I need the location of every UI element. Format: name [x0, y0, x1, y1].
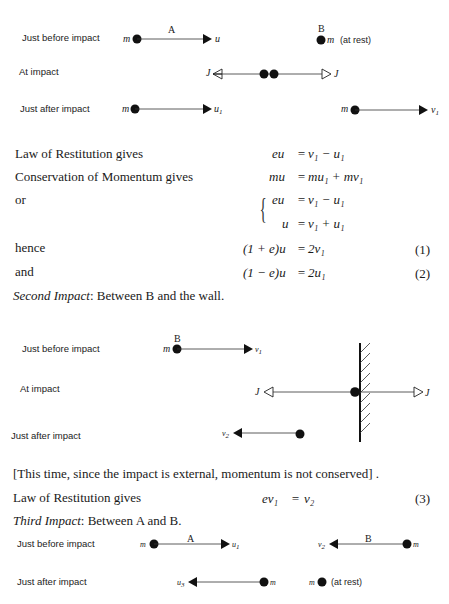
eq5-lhs: (1 + e)u — [243, 241, 286, 257]
svg-text:m: m — [270, 578, 276, 587]
eq6-lhs: (1 − e)u — [243, 265, 286, 281]
svg-text:m: m — [327, 34, 334, 45]
svg-text:(at rest): (at rest) — [331, 577, 362, 587]
eq-label-momentum: Conservation of Momentum gives — [15, 169, 193, 185]
svg-text:v2: v2 — [222, 429, 230, 440]
svg-text:B: B — [318, 23, 325, 34]
svg-text:m: m — [122, 103, 129, 114]
row-label-before-3: Just before impact — [17, 538, 95, 549]
eq1-rhs: v₁ − u₁ — [308, 146, 345, 162]
eq-label-and: and — [15, 264, 34, 280]
svg-text:u1: u1 — [232, 540, 240, 551]
eq-label-restitution: Law of Restitution gives — [15, 146, 143, 162]
eq7-lhs: ev₁ — [262, 491, 278, 507]
eq-number-2: (2) — [415, 266, 430, 282]
svg-text:v2: v2 — [318, 540, 326, 551]
eq7-rhs: v₂ — [304, 491, 314, 507]
ball-b — [317, 36, 326, 45]
svg-text:u1: u1 — [214, 103, 223, 116]
eq2-lhs: mu — [269, 169, 285, 185]
svg-text:m: m — [163, 343, 170, 354]
svg-text:A: A — [168, 24, 176, 35]
row-label-after-2: Just after impact — [11, 430, 81, 441]
svg-text:J: J — [255, 386, 260, 397]
svg-text:u: u — [215, 33, 220, 44]
svg-text:m: m — [140, 540, 146, 549]
eq6-rhs: 2u₁ — [308, 265, 326, 281]
eq3-lhs: eu — [272, 192, 284, 208]
first-impact-diagram: m u A B m (at rest) J J m u1 m v1 — [0, 0, 449, 130]
eq4-lhs: u — [282, 216, 289, 232]
eq-label-hence: hence — [15, 240, 45, 256]
eq5-rhs: 2v₁ — [308, 241, 325, 257]
svg-text:(at rest): (at rest) — [340, 35, 371, 45]
svg-text:u3: u3 — [177, 578, 185, 589]
svg-text:A: A — [187, 533, 195, 544]
svg-text:B: B — [365, 533, 372, 544]
second-impact-heading: Second Impact: Between B and the wall. — [13, 288, 224, 304]
third-impact-heading: Third Impact: Between A and B. — [13, 513, 182, 529]
svg-text:m: m — [341, 103, 348, 114]
brace: { — [260, 188, 267, 228]
eq3-rhs: v₁ − u₁ — [308, 192, 345, 208]
eq1-lhs: eu — [272, 146, 284, 162]
svg-text:J: J — [206, 67, 211, 78]
eq2-rhs: mu₁ + mv₁ — [308, 169, 363, 185]
row-label-after-3: Just after impact — [17, 576, 87, 587]
svg-text:m: m — [309, 578, 315, 587]
svg-text:J: J — [425, 387, 430, 398]
arrow-head-icon — [203, 34, 212, 44]
svg-text:B: B — [174, 333, 181, 344]
row-label-before-2: Just before impact — [22, 343, 100, 354]
svg-text:J: J — [334, 68, 339, 79]
svg-text:v1: v1 — [431, 104, 439, 117]
eq-label-restitution-2: Law of Restitution gives — [13, 490, 141, 506]
eq-number-3: (3) — [415, 491, 430, 507]
svg-text:m: m — [413, 540, 419, 549]
eq-label-or: or — [15, 192, 26, 208]
mass-label: m — [123, 33, 130, 44]
external-impact-note: [This time, since the impact is external… — [13, 466, 379, 482]
row-label-at-2: At impact — [20, 383, 60, 394]
svg-text:v1: v1 — [255, 345, 262, 356]
eq-number-1: (1) — [415, 242, 430, 258]
eq4-rhs: v₁ + u₁ — [308, 216, 345, 232]
